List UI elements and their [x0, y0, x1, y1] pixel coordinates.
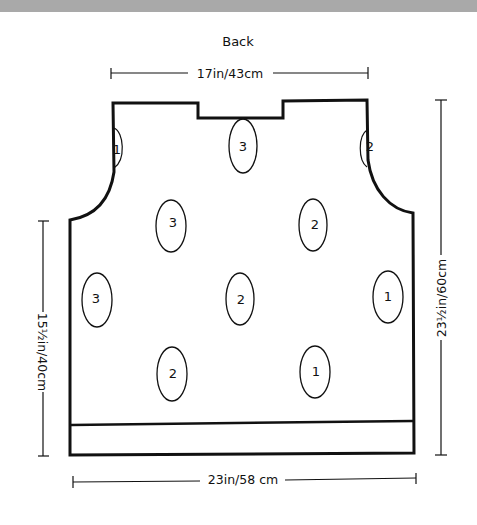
pattern-diagram: Back 17in/43cm 1 2 3 3 2 3 2 1: [0, 0, 477, 525]
svg-text:2: 2: [237, 292, 245, 307]
motif-oval: 3: [229, 119, 257, 173]
right-dimension-label: 23½in/60cm: [434, 259, 449, 338]
left-dimension-label: 15½in/40cm: [35, 313, 50, 392]
svg-text:2: 2: [169, 366, 177, 381]
svg-text:2: 2: [366, 139, 374, 154]
svg-text:3: 3: [239, 139, 247, 154]
bottom-dimension-label: 23in/58 cm: [208, 472, 278, 487]
motif-oval: 2: [226, 273, 254, 325]
motif-oval: 2: [299, 199, 327, 251]
svg-text:1: 1: [113, 142, 121, 157]
motif-oval: 1: [373, 271, 403, 323]
motif-oval: 1: [300, 346, 330, 398]
svg-text:2: 2: [311, 217, 319, 232]
svg-text:1: 1: [384, 289, 392, 304]
svg-text:3: 3: [169, 215, 177, 230]
top-dimension-label: 17in/43cm: [197, 66, 263, 81]
diagram-title: Back: [222, 34, 254, 49]
motif-oval: 3: [82, 273, 112, 327]
motif-oval: 3: [156, 200, 186, 252]
svg-text:1: 1: [312, 364, 320, 379]
svg-text:3: 3: [92, 291, 100, 306]
motif-oval: 2: [157, 347, 187, 401]
welt-line: [71, 421, 413, 425]
